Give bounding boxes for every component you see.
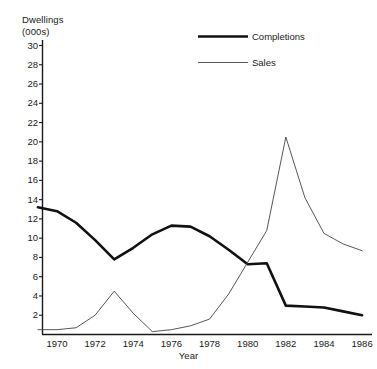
series-line-completions <box>38 207 362 315</box>
legend-label-completions: Completions <box>252 32 305 42</box>
axis-lines <box>42 40 372 335</box>
legend-label-sales: Sales <box>252 58 276 68</box>
chart-container: Dwellings(000s) 302826242220181614121086… <box>0 0 377 369</box>
legend-swatches <box>198 37 248 63</box>
series-lines <box>38 137 362 332</box>
series-line-sales <box>38 137 362 332</box>
plot-area <box>0 0 377 369</box>
